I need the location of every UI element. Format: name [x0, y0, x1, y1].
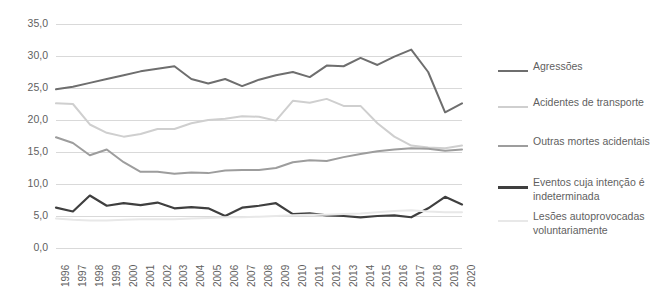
x-axis-tick-label: 2008 — [263, 265, 274, 287]
legend-item-2[interactable]: Acidentes de transporte — [498, 96, 660, 112]
legend-line-swatch-icon — [498, 64, 528, 76]
x-axis-tick-label: 2010 — [297, 265, 308, 287]
legend-item-label: Lesões autoprovocadas voluntariamente — [533, 210, 645, 237]
x-axis-tick-label: 2018 — [432, 265, 443, 287]
y-axis-tick-label: 25,0 — [14, 81, 48, 93]
x-axis-tick-label: 1999 — [111, 265, 122, 287]
x-axis-tick-label: 2017 — [415, 265, 426, 287]
x-axis-tick-label: 2004 — [195, 265, 206, 287]
x-axis-tick-label: 2003 — [178, 265, 189, 287]
x-axis-tick-label: 2005 — [212, 265, 223, 287]
x-axis-tick-label: 2006 — [229, 265, 240, 287]
y-axis-tick-label: 0,0 — [14, 241, 48, 253]
x-axis-tick-label: 2015 — [381, 265, 392, 287]
legend-item-1[interactable]: Agressões — [498, 60, 660, 76]
plot-svg — [0, 0, 470, 292]
legend-item-label: Agressões — [533, 60, 583, 74]
line-chart-figure: 0,05,010,015,020,025,030,035,0 199619971… — [0, 0, 660, 292]
x-axis-tick-label: 2019 — [449, 265, 460, 287]
x-axis-tick-label: 2009 — [280, 265, 291, 287]
legend-line-swatch-icon — [498, 139, 528, 151]
x-axis-tick-label: 2001 — [145, 265, 156, 287]
legend-item-3[interactable]: Outras mortes acidentais — [498, 135, 660, 151]
series-line-1 — [56, 50, 462, 113]
x-axis-tick-label: 2012 — [331, 265, 342, 287]
x-axis-tick-label: 2014 — [365, 265, 376, 287]
y-axis-tick-label: 10,0 — [14, 177, 48, 189]
legend-item-label: Acidentes de transporte — [533, 96, 644, 110]
x-axis-tick-label: 1997 — [77, 265, 88, 287]
legend-item-label: Eventos cuja intenção é indeterminada — [533, 176, 645, 203]
plot-area: 0,05,010,015,020,025,030,035,0 199619971… — [0, 0, 470, 292]
x-axis-tick-label: 2002 — [162, 265, 173, 287]
y-axis-tick-label: 35,0 — [14, 17, 48, 29]
y-axis-tick-label: 5,0 — [14, 209, 48, 221]
legend-line-swatch-icon — [498, 180, 528, 192]
x-axis-tick-label: 2011 — [314, 265, 325, 287]
x-axis-tick-label: 2000 — [128, 265, 139, 287]
series-line-4 — [56, 196, 462, 218]
y-axis-tick-label: 30,0 — [14, 49, 48, 61]
x-axis-tick-label: 2007 — [246, 265, 257, 287]
series-line-2 — [56, 99, 462, 148]
x-axis-tick-label: 1998 — [94, 265, 105, 287]
x-axis-tick-label: 2020 — [466, 265, 477, 287]
y-axis-tick-label: 20,0 — [14, 113, 48, 125]
legend-line-swatch-icon — [498, 214, 528, 226]
x-axis-tick-label: 1996 — [60, 265, 71, 287]
legend-item-label: Outras mortes acidentais — [533, 135, 650, 149]
x-axis-tick-label: 2013 — [348, 265, 359, 287]
chart-legend: AgressõesAcidentes de transporteOutras m… — [498, 0, 660, 292]
legend-item-5[interactable]: Lesões autoprovocadas voluntariamente — [498, 210, 660, 237]
legend-item-4[interactable]: Eventos cuja intenção é indeterminada — [498, 176, 660, 203]
legend-line-swatch-icon — [498, 100, 528, 112]
series-line-3 — [56, 137, 462, 173]
y-axis-tick-label: 15,0 — [14, 145, 48, 157]
x-axis-tick-label: 2016 — [398, 265, 409, 287]
series-lines — [56, 50, 462, 221]
